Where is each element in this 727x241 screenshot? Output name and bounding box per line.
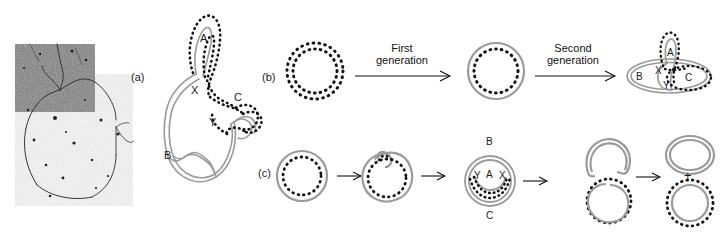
panel-a-label-C: C <box>234 91 242 103</box>
panel-b-stage1-double-dotted-circle <box>287 43 343 99</box>
panel-c-label-A: A <box>486 169 493 180</box>
micrograph-dark-field <box>15 44 95 112</box>
second-generation-line1: Second <box>533 42 613 54</box>
panel-b-label-A: A <box>667 47 674 58</box>
panel-c-stage1-hybrid-circle <box>277 151 327 201</box>
panel-c-label-C: C <box>486 210 493 221</box>
panel-c-plus-sign: + <box>684 168 692 183</box>
panel-c-label-Y: Y <box>474 170 481 181</box>
panel-a-label-Y: Y <box>209 116 217 128</box>
panel-c-arrow-2 <box>421 172 445 180</box>
panel-c-arrow-4 <box>636 173 660 181</box>
panel-a-label-A: A <box>200 32 208 44</box>
panel-c-stage2-circle-with-bud <box>362 152 412 202</box>
panel-c-stage4-joined-circles <box>586 139 631 223</box>
micrograph-svg: X Y B A C <box>0 0 727 241</box>
panel-c-arrow-3 <box>523 177 547 185</box>
second-generation-line2: generation <box>533 54 613 66</box>
first-generation-line1: First <box>362 42 442 54</box>
panel-label-c: (c) <box>258 167 271 179</box>
panel-c-stage3-structure <box>465 156 515 206</box>
panel-a-gray-backbone <box>164 27 255 181</box>
panel-b-arrow-first-generation <box>355 71 450 81</box>
figure-root: X Y B A C <box>0 0 727 241</box>
panel-c-label-B: B <box>486 136 493 147</box>
panel-a-label-X: X <box>191 84 199 96</box>
panel-b-label-Y: Y <box>663 80 670 91</box>
panel-b-stage2-hybrid-circle <box>468 43 524 99</box>
panel-label-b: (b) <box>262 71 275 83</box>
panel-b-label-X: X <box>655 65 662 76</box>
panel-a-label-B: B <box>164 149 171 161</box>
panel-b-label-B: B <box>636 71 643 82</box>
first-generation-line2: generation <box>362 54 442 66</box>
panel-b-arrow-second-generation <box>535 71 615 81</box>
panel-c-arrow-1 <box>337 172 361 180</box>
panel-b-label-C: C <box>685 72 692 83</box>
panel-label-a: (a) <box>131 71 144 83</box>
panel-c-label-X: X <box>499 170 506 181</box>
